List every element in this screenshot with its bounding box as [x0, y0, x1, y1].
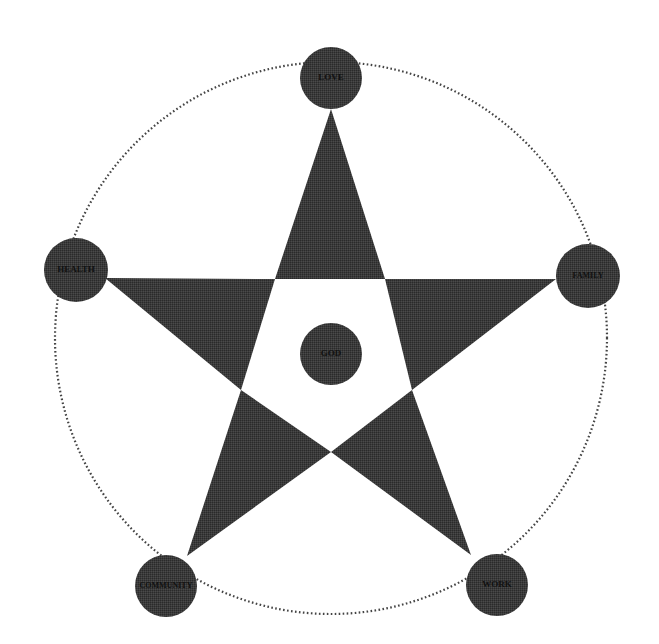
node-love: LOVE	[300, 47, 362, 109]
love-label: LOVE	[318, 72, 344, 82]
work-label: WORK	[482, 579, 512, 589]
health-label: HEALTH	[57, 264, 95, 274]
family-label: FAMILY	[572, 271, 603, 280]
node-health: HEALTH	[44, 238, 108, 302]
node-community: COMMUNITY	[135, 555, 197, 617]
node-work: WORK	[466, 554, 528, 616]
center-node-god: GOD	[300, 323, 362, 385]
pentagram-diagram: GOD LOVE FAMILY WORK COMMUNITY HEALTH	[0, 0, 659, 644]
community-label: COMMUNITY	[140, 581, 193, 590]
god-label: GOD	[321, 348, 342, 358]
node-family: FAMILY	[556, 244, 620, 308]
